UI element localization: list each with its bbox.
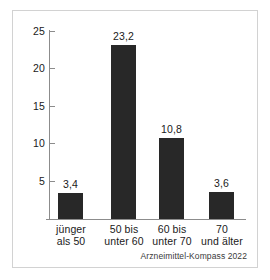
y-tick-label: 25 <box>15 26 45 37</box>
y-tick-mark <box>50 143 55 144</box>
y-axis-line <box>49 30 50 220</box>
cat-line-2: und älter <box>190 235 254 247</box>
x-axis-line <box>49 219 246 220</box>
y-tick-20: 20 <box>13 68 55 69</box>
bar-50-bis-unter-60[interactable] <box>111 45 136 219</box>
y-tick-15: 15 <box>13 106 55 107</box>
source-attribution: Arzneimittel-Kompass 2022 <box>141 251 247 261</box>
y-tick-0-mark <box>46 219 50 220</box>
y-tick-mark <box>50 31 55 32</box>
bar-value-label: 3,6 <box>199 178 244 189</box>
y-tick-mark <box>50 68 55 69</box>
y-tick-25: 25 <box>13 31 55 32</box>
chart-figure: 25 20 15 10 5 3,4 23,2 10,8 3,6 <box>12 10 258 268</box>
y-tick-label: 15 <box>15 101 45 112</box>
y-tick-label: 10 <box>15 138 45 149</box>
bar-60-bis-unter-70[interactable] <box>159 138 184 219</box>
y-tick-mark <box>50 106 55 107</box>
bar-juenger-als-50[interactable] <box>58 193 83 219</box>
bar-value-label: 3,4 <box>48 179 93 190</box>
bar-70-und-aelter[interactable] <box>209 192 234 219</box>
bar-value-label: 10,8 <box>149 124 194 135</box>
plot-area: 25 20 15 10 5 3,4 23,2 10,8 3,6 <box>13 11 257 267</box>
bar-value-label: 23,2 <box>101 31 146 42</box>
y-tick-label: 20 <box>15 63 45 74</box>
y-tick-10: 10 <box>13 143 55 144</box>
x-category-label-70-und-aelter: 70 und älter <box>190 223 254 247</box>
cat-line-1: 70 <box>190 223 254 235</box>
y-tick-label: 5 <box>15 176 45 187</box>
